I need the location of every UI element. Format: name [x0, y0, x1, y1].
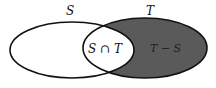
set-s-label: S: [66, 4, 74, 18]
set-t-label: T: [146, 4, 155, 18]
t-minus-s-label: T − S: [150, 42, 182, 55]
intersection-label: S ∩ T: [88, 42, 123, 56]
venn-diagram: S T S ∩ T T − S: [0, 0, 216, 88]
